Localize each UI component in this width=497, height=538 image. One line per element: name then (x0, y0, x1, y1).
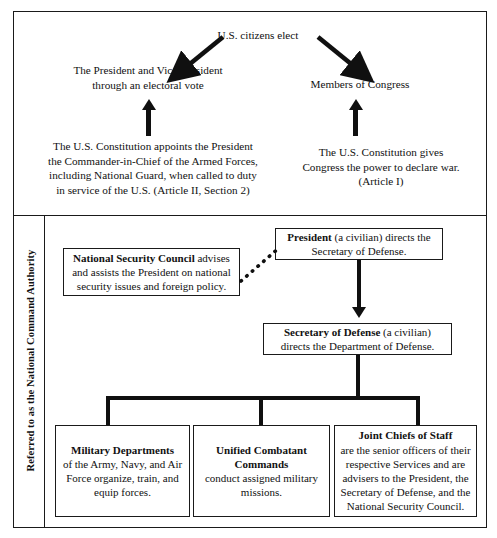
connector-drop-joint-chiefs (416, 396, 420, 426)
diagram-canvas: Referred to as the National Command Auth… (0, 0, 497, 538)
sidebar-vertical-label: Referred to as the National Command Auth… (25, 211, 36, 511)
unified-combatant-commands-box[interactable]: Unified Combatant Commands conduct assig… (193, 425, 330, 517)
section-divider-line (13, 215, 487, 216)
nsc-box-title: National Security Council (73, 252, 195, 264)
secretary-of-defense-box[interactable]: Secretary of Defense (a civilian) direct… (263, 323, 452, 355)
joint-chiefs-of-staff-body: are the senior officers of their respect… (340, 444, 470, 513)
constitution-president-clause-text: The U.S. Constitution appoints the Presi… (33, 139, 273, 197)
secdef-box-title: Secretary of Defense (284, 326, 380, 338)
arrow-constitution-to-congress-shaft (353, 110, 358, 136)
military-departments-body: of the Army, Navy, and Air Force organiz… (63, 458, 182, 498)
president-box-title: President (287, 231, 331, 243)
joint-chiefs-of-staff-title: Joint Chiefs of Staff (359, 429, 453, 441)
dotted-advisory-link-icon (238, 243, 284, 285)
arrow-constitution-to-president-head-icon (142, 99, 156, 110)
constitution-congress-clause-text: The U.S. Constitution gives Congress the… (286, 145, 476, 189)
unified-combatant-commands-title: Unified Combatant Commands (216, 444, 307, 470)
president-box[interactable]: President (a civilian) directs the Secre… (275, 228, 443, 260)
military-departments-title: Military Departments (71, 444, 174, 456)
unified-combatant-commands-body: conduct assigned military missions. (205, 472, 318, 498)
connector-secdef-dropline (356, 355, 360, 400)
arrow-president-to-secdef-shaft (357, 260, 361, 308)
arrow-constitution-to-president-shaft (146, 110, 151, 136)
connector-drop-unified-combatant (259, 396, 263, 426)
joint-chiefs-of-staff-box[interactable]: Joint Chiefs of Staff are the senior off… (334, 425, 477, 517)
arrow-president-to-secdef-head-icon (352, 307, 366, 318)
members-of-congress-label: Members of Congress (290, 77, 430, 92)
president-vice-president-label: The President and Vice-President through… (58, 63, 238, 92)
military-departments-box[interactable]: Military Departments of the Army, Navy, … (55, 425, 190, 517)
arrow-constitution-to-congress-head-icon (349, 99, 363, 110)
national-security-council-box[interactable]: National Security Council advises and as… (63, 248, 240, 296)
connector-horizontal-bus (106, 396, 420, 400)
connector-drop-military-departments (106, 396, 110, 426)
arrow-citizens-to-congress-icon (312, 34, 374, 82)
sidebar-divider-line (44, 215, 45, 528)
